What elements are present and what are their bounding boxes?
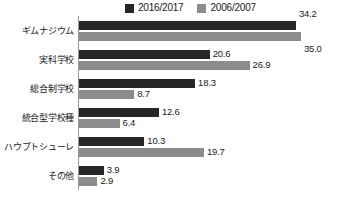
legend-entry-2006-2007: 2006/2007 [197,3,255,13]
bar-row-2016-2017: 18.3 [79,79,344,88]
bar-row-2016-2017: 20.6 [79,50,344,59]
bar-group: ハウプトシューレ 10.3 19.7 [0,132,344,161]
bar-group: その他 3.9 2.9 [0,161,344,190]
bar-value-2016-2017: 34.2 [299,9,317,19]
chart-legend: 2016/2017 2006/2007 [125,2,256,14]
bar-row-2016-2017: 12.6 [79,108,344,117]
bar-row-2006-2007: 6.4 [79,119,344,128]
category-label: ギムナジウム [0,25,74,36]
bar-2006-2007 [79,148,204,157]
bar-row-2016-2017: 34.2 [79,21,344,30]
category-label: その他 [0,170,74,181]
bar-2006-2007 [79,32,301,41]
bar-row-2016-2017: 10.3 [79,137,344,146]
bar-groups: ギムナジウム 34.2 35.0 実科学校 20.6 [0,16,344,190]
bar-2016-2017 [79,137,144,146]
bar-group: 統合型学校種 12.6 6.4 [0,103,344,132]
bar-value-2006-2007: 26.9 [253,60,271,70]
bar-value-2016-2017: 3.9 [107,165,120,175]
bar-value-2016-2017: 10.3 [147,136,165,146]
bar-value-2016-2017: 20.6 [213,49,231,59]
bar-row-2006-2007: 26.9 [79,61,344,70]
bar-value-2006-2007: 8.7 [137,89,150,99]
bar-row-2016-2017: 3.9 [79,166,344,175]
bar-row-2006-2007: 19.7 [79,148,344,157]
bar-group: 総合制学校 18.3 8.7 [0,74,344,103]
category-label: 総合制学校 [0,83,74,94]
legend-entry-2016-2017: 2016/2017 [125,3,183,13]
bar-2016-2017 [79,108,159,117]
bar-chart: 2016/2017 2006/2007 ギムナジウム 34.2 35.0 [0,0,344,198]
bar-2016-2017 [79,79,195,88]
bar-2016-2017 [79,21,296,30]
bar-2016-2017 [79,166,104,175]
category-label: 統合型学校種 [0,112,74,123]
bar-value-2016-2017: 18.3 [198,78,216,88]
legend-swatch-dark-icon [125,4,134,13]
legend-label-2016-2017: 2016/2017 [138,3,183,13]
bar-value-2006-2007: 6.4 [123,118,136,128]
bar-row-2006-2007: 2.9 [79,177,344,186]
bar-value-2006-2007: 19.7 [207,147,225,157]
category-label: ハウプトシューレ [0,141,74,152]
bar-2016-2017 [79,50,210,59]
category-label: 実科学校 [0,54,74,65]
bar-2006-2007 [79,90,134,99]
bar-group: 実科学校 20.6 26.9 [0,45,344,74]
legend-label-2006-2007: 2006/2007 [210,3,255,13]
bar-group: ギムナジウム 34.2 35.0 [0,16,344,45]
bar-value-2016-2017: 12.6 [162,107,180,117]
plot-area: ギムナジウム 34.2 35.0 実科学校 20.6 [0,16,344,192]
bar-2006-2007 [79,61,250,70]
bar-value-2006-2007: 2.9 [100,176,113,186]
bar-row-2006-2007: 8.7 [79,90,344,99]
bar-row-2006-2007: 35.0 [79,32,344,41]
bar-2006-2007 [79,177,97,186]
legend-swatch-gray-icon [197,4,206,13]
bar-2006-2007 [79,119,120,128]
